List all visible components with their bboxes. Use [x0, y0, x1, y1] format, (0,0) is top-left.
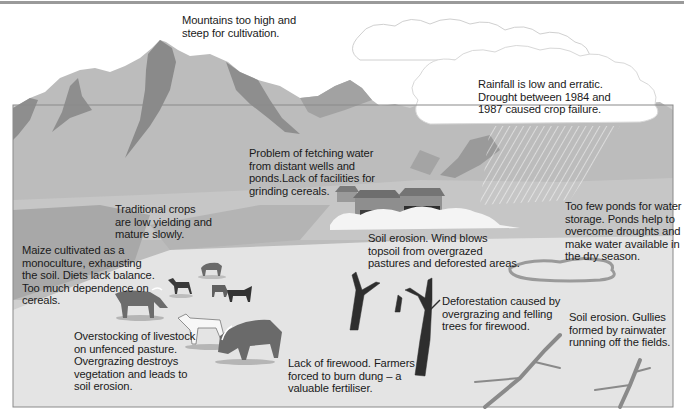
annotation-overstocking: Overstocking of livestock on unfenced pa… [74, 330, 195, 393]
annotation-rainfall: Rainfall is low and erratic. Drought bet… [478, 78, 611, 116]
annotation-gullies: Soil erosion. Gullies formed by rainwate… [569, 311, 670, 349]
annotation-ponds: Too few ponds for water storage. Ponds h… [565, 200, 681, 263]
annotation-firewood: Lack of firewood. Farmers forced to burn… [288, 357, 415, 395]
annotation-crops: Traditional crops are low yielding and m… [115, 203, 212, 241]
annotation-maize: Maize cultivated as a monoculture, exhau… [22, 244, 155, 307]
annotation-mountains: Mountains too high and steep for cultiva… [182, 14, 296, 39]
annotation-wind-erosion: Soil erosion. Wind blows topsoil from ov… [368, 232, 520, 270]
annotation-deforestation: Deforestation caused by overgrazing and … [442, 295, 560, 333]
annotation-water: Problem of fetching water from distant w… [249, 147, 375, 197]
